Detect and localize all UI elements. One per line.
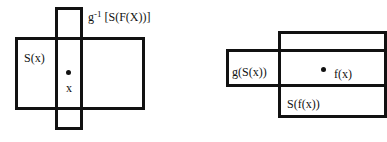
point-x-dot bbox=[66, 70, 71, 75]
point-x-label: x bbox=[66, 82, 72, 94]
preimage-label-rest: [S(F(X))] bbox=[102, 10, 151, 24]
point-fx-dot bbox=[321, 67, 326, 72]
preimage-label: g-1 [S(F(X))] bbox=[88, 11, 151, 23]
set-s-fx-label: S(f(x)) bbox=[287, 98, 320, 110]
preimage-label-exp: -1 bbox=[94, 9, 102, 19]
preimage-strip-rect bbox=[55, 7, 83, 130]
point-fx-label: f(x) bbox=[334, 68, 352, 80]
set-s-x-label: S(x) bbox=[24, 52, 45, 64]
image-g-label: g(S(x)) bbox=[232, 66, 267, 78]
